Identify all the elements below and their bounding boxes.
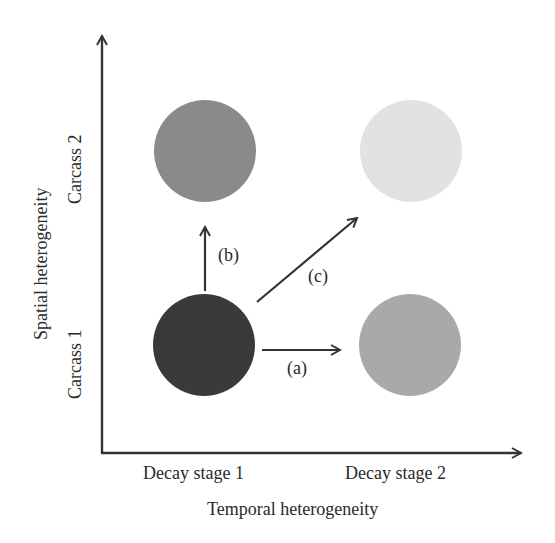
x-category-decay-stage-2: Decay stage 2	[345, 463, 446, 484]
y-axis-title: Spatial heterogeneity	[31, 188, 52, 340]
x-category-decay-stage-1: Decay stage 1	[143, 463, 244, 484]
node-carcass1-stage2	[359, 294, 461, 396]
diagram-canvas	[0, 0, 555, 543]
arrow-a-label: (a)	[287, 358, 307, 379]
node-carcass2-stage2	[360, 100, 462, 202]
y-category-carcass-2: Carcass 2	[65, 135, 86, 204]
node-carcass2-stage1	[154, 100, 256, 202]
y-category-carcass-1: Carcass 1	[65, 330, 86, 399]
arrow-c-label: (c)	[308, 266, 328, 287]
x-axis-title: Temporal heterogeneity	[207, 499, 378, 520]
arrow-c	[257, 218, 357, 302]
arrow-b-label: (b)	[218, 245, 239, 266]
node-carcass1-stage1	[153, 294, 255, 396]
